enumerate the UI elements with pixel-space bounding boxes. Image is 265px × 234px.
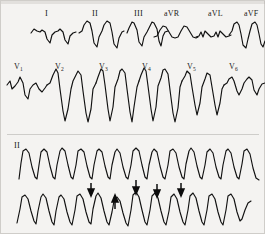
limb-lead-band: I II III aVR aVL aVF bbox=[1, 1, 265, 63]
trace-lead-i bbox=[31, 29, 76, 44]
precordial-lead-traces bbox=[1, 59, 265, 131]
trace-rhythm-1 bbox=[19, 148, 259, 180]
arrow-up-icon-2 bbox=[112, 195, 118, 209]
arrow-down-icon-4 bbox=[154, 184, 160, 197]
arrow-down-icon-3 bbox=[133, 180, 139, 194]
arrow-down-icon-1 bbox=[88, 183, 94, 196]
trace-lead-ii bbox=[79, 21, 124, 48]
rhythm-strip-2 bbox=[1, 179, 265, 234]
rhythm-strip-1: II bbox=[1, 137, 265, 185]
trace-lead-v5 bbox=[182, 71, 224, 115]
trace-lead-avl bbox=[196, 31, 231, 37]
ecg-figure: I II III aVR aVL aVF V1 V2 V3 bbox=[0, 0, 265, 234]
rhythm-strip-1-trace bbox=[1, 137, 265, 185]
arrow-down-icon-5 bbox=[178, 183, 184, 196]
trace-lead-v4 bbox=[139, 68, 182, 122]
annotation-arrows bbox=[1, 179, 265, 234]
trace-lead-v3 bbox=[96, 69, 139, 122]
precordial-lead-band: V1 V2 V3 V4 V5 V6 bbox=[1, 59, 265, 131]
trace-lead-avf bbox=[229, 22, 265, 48]
trace-lead-iii bbox=[127, 22, 168, 46]
limb-lead-traces bbox=[1, 1, 265, 63]
trace-lead-v2 bbox=[47, 69, 96, 122]
trace-lead-v1 bbox=[7, 77, 47, 99]
trace-lead-avr bbox=[154, 26, 198, 38]
section-divider bbox=[7, 134, 259, 135]
trace-lead-v6 bbox=[224, 77, 265, 95]
